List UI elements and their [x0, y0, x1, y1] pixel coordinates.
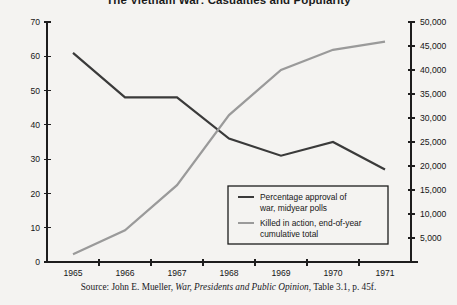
right-axis-tick-label: 10,000	[420, 209, 447, 219]
left-axis-tick-label: 20	[30, 189, 40, 199]
left-axis-tick-label: 40	[30, 120, 40, 130]
left-axis-tick-label: 30	[30, 154, 40, 164]
left-axis-tick-label: 50	[30, 86, 40, 96]
right-axis-tick-label: 15,000	[420, 185, 447, 195]
right-axis-tick-label: 30,000	[420, 113, 447, 123]
series-line-0	[73, 53, 385, 170]
legend-label-1-line2: cumulative total	[260, 229, 318, 239]
right-axis-tick-label: 40,000	[420, 65, 447, 75]
left-axis-tick-label: 10	[30, 223, 40, 233]
x-axis-tick-label: 1966	[115, 268, 134, 278]
x-axis-tick-label: 1968	[219, 268, 238, 278]
source-suffix: , Table 3.1, p. 45f.	[309, 282, 377, 292]
source-prefix: Source: John E. Mueller,	[81, 282, 176, 292]
left-axis-tick-label: 60	[30, 51, 40, 61]
x-axis-tick-label: 1969	[271, 268, 290, 278]
chart-figure: The Vietnam War: Casualties and Populari…	[0, 0, 457, 305]
chart-legend: Percentage approval ofwar, midyear polls…	[228, 186, 388, 244]
right-axis-tick-label: 35,000	[420, 89, 447, 99]
left-axis-tick-label: 70	[30, 17, 40, 27]
right-axis-tick-label: 25,000	[420, 137, 447, 147]
source-book-title: War, Presidents and Public Opinion	[175, 282, 308, 292]
legend-label-1: Killed in action, end-of-year	[260, 218, 362, 228]
right-axis-tick-label: 50,000	[420, 17, 447, 27]
right-axis-tick-label: 45,000	[420, 41, 447, 51]
chart-plot: 0102030405060705,00010,00015,00020,00025…	[0, 0, 457, 305]
left-axis-tick-label: 0	[35, 257, 40, 267]
x-axis-tick-label: 1970	[323, 268, 342, 278]
legend-label-0-line2: war, midyear polls	[259, 203, 327, 213]
x-axis-tick-label: 1965	[63, 268, 82, 278]
right-axis-tick-label: 20,000	[420, 161, 447, 171]
x-axis-tick-label: 1971	[375, 268, 394, 278]
right-axis-tick-label: 5,000	[420, 233, 442, 243]
source-note: Source: John E. Mueller, War, Presidents…	[0, 282, 457, 292]
legend-label-0: Percentage approval of	[260, 192, 347, 202]
x-axis-tick-label: 1967	[167, 268, 186, 278]
